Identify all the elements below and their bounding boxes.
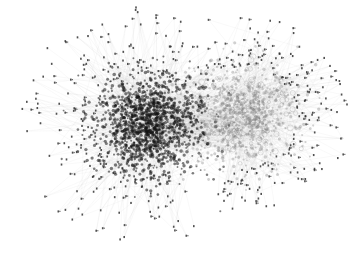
network-graph-canvas: [0, 0, 356, 273]
